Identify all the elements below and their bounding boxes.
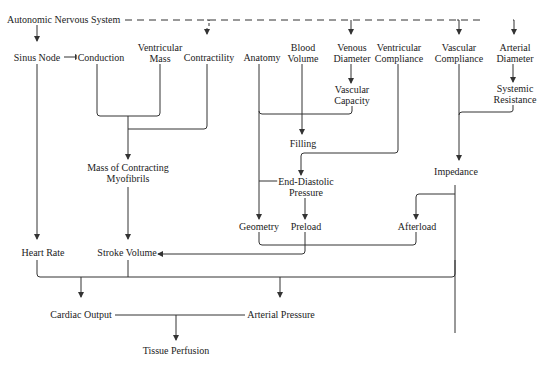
node-label-line1: End-Diastolic (278, 176, 334, 187)
node-blood-volume: BloodVolume (287, 42, 320, 64)
arrow-ans-vascular-compliance (457, 20, 459, 34)
node-label: Conduction (78, 52, 125, 63)
node-cardiac-output: Cardiac Output (49, 309, 112, 320)
node-preload: Preload (290, 221, 323, 232)
node-label: Arterial Pressure (247, 309, 314, 320)
node-label-line2: Myofibrils (87, 173, 169, 184)
node-heart-rate: Heart Rate (20, 247, 65, 258)
node-label-line2: Compliance (435, 53, 483, 64)
node-label: Contractility (184, 52, 235, 63)
node-ventricular-mass: VentricularMass (137, 42, 183, 64)
node-label: Afterload (398, 221, 436, 232)
arrow-impedance-afterload (416, 194, 455, 219)
node-tissue-perfusion: Tissue Perfusion (142, 345, 211, 356)
node-label-line1: Ventricular (375, 42, 423, 53)
node-ventricular-compliance: VentricularCompliance (374, 42, 424, 64)
node-label-line2: Diameter (496, 53, 533, 64)
node-label: Geometry (239, 221, 279, 232)
node-label: Preload (291, 221, 322, 232)
node-label: Heart Rate (21, 247, 64, 258)
node-arterial-pressure: Arterial Pressure (246, 309, 315, 320)
arrow-vcompliance-edp (301, 64, 398, 175)
node-label-line1: Vascular (334, 84, 370, 95)
node-mass-contracting-myofibrils: Mass of ContractingMyofibrils (86, 162, 170, 184)
node-contractility: Contractility (183, 52, 236, 63)
node-label: Filling (290, 138, 317, 149)
node-label: Tissue Perfusion (143, 345, 210, 356)
node-label: Anatomy (243, 52, 280, 63)
node-label: Autonomic Nervous System (7, 14, 120, 25)
node-label-line2: Mass (138, 53, 182, 64)
node-label-line2: Capacity (334, 95, 370, 106)
node-label-line1: Systemic (494, 83, 537, 94)
node-geometry: Geometry (238, 221, 280, 232)
node-autonomic-nervous-system: Autonomic Nervous System (6, 14, 121, 25)
node-vascular-capacity: VascularCapacity (333, 84, 371, 106)
node-anatomy: Anatomy (242, 52, 281, 63)
node-label-line2: Compliance (375, 53, 423, 64)
arrow-to-strokevolume (158, 232, 305, 254)
node-label-line1: Ventricular (138, 42, 182, 53)
node-label: Impedance (434, 166, 478, 177)
node-end-diastolic-pressure: End-DiastolicPressure (277, 176, 335, 198)
node-systemic-resistance: SystemicResistance (493, 83, 538, 105)
node-impedance: Impedance (433, 166, 479, 177)
node-label-line1: Vascular (435, 42, 483, 53)
node-label-line2: Resistance (494, 94, 537, 105)
node-venous-diameter: VenousDiameter (332, 42, 371, 64)
node-vascular-compliance: VascularCompliance (434, 42, 484, 64)
node-label: Stroke Volume (97, 247, 156, 258)
node-sinus-node: Sinus Node (13, 52, 61, 63)
node-filling: Filling (289, 138, 318, 149)
node-conduction: Conduction (77, 52, 126, 63)
node-stroke-volume: Stroke Volume (96, 247, 157, 258)
node-label: Sinus Node (14, 52, 60, 63)
node-label-line1: Venous (333, 42, 370, 53)
arrow-ans-arterial (513, 20, 514, 34)
node-afterload: Afterload (397, 221, 437, 232)
node-label-line1: Mass of Contracting (87, 162, 169, 173)
node-label-line2: Diameter (333, 53, 370, 64)
node-label-line2: Volume (288, 53, 319, 64)
node-arterial-diameter: ArterialDiameter (495, 42, 534, 64)
node-label: Cardiac Output (50, 309, 111, 320)
node-label-line2: Pressure (278, 187, 334, 198)
node-label-line1: Arterial (496, 42, 533, 53)
tissue-perfusion-diagram: Autonomic Nervous System Sinus Node Cond… (0, 0, 549, 368)
node-label-line1: Blood (288, 42, 319, 53)
